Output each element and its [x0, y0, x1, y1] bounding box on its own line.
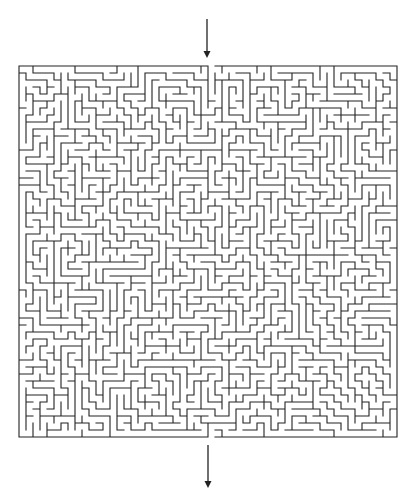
- arrow-head: [205, 481, 212, 488]
- start-arrow-icon: [204, 19, 211, 58]
- arrow-head: [204, 51, 211, 58]
- maze-canvas: [0, 0, 419, 494]
- maze-wall-lines: [19, 66, 397, 437]
- maze-puzzle: Maze: [0, 0, 419, 494]
- finish-arrow-icon: [205, 445, 212, 488]
- maze-walls: [19, 66, 397, 437]
